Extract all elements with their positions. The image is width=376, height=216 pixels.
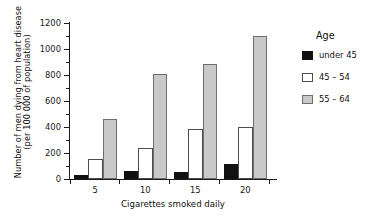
y-tick-major [64,23,70,24]
y-tick-minor [66,36,70,37]
y-tick-minor [66,140,70,141]
legend-entry: 45 – 54 [302,72,376,82]
x-tick-origin [70,179,71,184]
legend-title: Age [316,30,376,41]
y-tick-label: 800 [21,71,61,79]
bar [224,164,239,179]
legend-swatch-white [302,73,313,82]
x-tick-label: 10 [130,186,160,194]
y-tick-label: 0 [21,175,61,183]
bar [174,172,189,179]
y-tick-major [64,127,70,128]
y-tick-minor [66,166,70,167]
bar [203,64,218,179]
legend-entries: under 4545 – 5455 – 64 [302,50,376,104]
x-tick-label: 20 [230,186,260,194]
legend-swatch-gray [302,95,313,104]
y-tick-label: 600 [21,97,61,105]
y-tick-major [64,49,70,50]
bar [238,127,253,179]
y-tick-label: 1000 [21,45,61,53]
y-tick-major [64,101,70,102]
legend-entry: 55 – 64 [302,94,376,104]
y-tick-major [64,179,70,180]
y-tick-major [64,153,70,154]
x-tick [169,179,170,184]
x-tick-label: 5 [80,186,110,194]
x-axis-line [69,179,277,180]
x-tick-label: 15 [180,186,210,194]
y-tick-minor [66,114,70,115]
y-tick-label: 1200 [21,19,61,27]
y-tick-minor [66,88,70,89]
y-tick-minor [66,62,70,63]
x-tick [219,179,220,184]
legend: Age under 4545 – 5455 – 64 [302,30,376,116]
bar [74,175,89,179]
bar [124,171,139,179]
y-tick-label: 400 [21,123,61,131]
legend-label: 55 – 64 [319,95,350,104]
bar [253,36,268,179]
y-tick-major [64,75,70,76]
bar [153,74,168,179]
bar-chart-figure: Number of men dying from heart disease (… [0,0,376,216]
bar [88,159,103,179]
bar [138,148,153,179]
legend-label: under 45 [319,51,357,60]
legend-swatch-black [302,51,313,60]
bar [103,119,118,179]
bar [188,129,203,179]
legend-entry: under 45 [302,50,376,60]
legend-label: 45 – 54 [319,73,350,82]
x-axis-title: Cigarettes smoked daily [60,200,286,209]
y-tick-label: 200 [21,149,61,157]
x-tick [119,179,120,184]
x-tick [269,179,270,184]
